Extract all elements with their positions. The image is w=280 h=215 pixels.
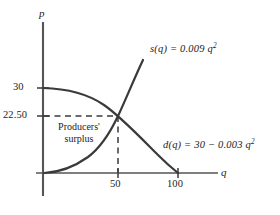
- producers-surplus-annotation: Producers' surplus: [47, 121, 111, 145]
- y-tick-label-22-50: 22.50: [3, 110, 27, 121]
- y-tick-label-30: 30: [13, 82, 24, 93]
- demand-curve-label: d(q) = 30 − 0.003 q2: [163, 140, 255, 151]
- y-axis-label: p: [39, 8, 45, 19]
- supply-equation-text: s(q) = 0.009 q: [150, 43, 213, 54]
- x-axis-label: q: [221, 167, 227, 178]
- producers-surplus-line-1: Producers': [47, 121, 111, 133]
- supply-demand-figure: p q 30 22.50 50 100 s(q) = 0.009 q2 d(q)…: [0, 0, 280, 215]
- x-tick-label-100: 100: [167, 179, 183, 190]
- demand-exponent: 2: [251, 138, 255, 146]
- supply-exponent: 2: [213, 42, 217, 50]
- supply-curve-label: s(q) = 0.009 q2: [150, 44, 217, 55]
- x-tick-label-50: 50: [110, 179, 121, 190]
- demand-equation-text: d(q) = 30 − 0.003 q: [163, 139, 251, 150]
- producers-surplus-line-2: surplus: [47, 133, 111, 145]
- plot-canvas: [0, 0, 280, 215]
